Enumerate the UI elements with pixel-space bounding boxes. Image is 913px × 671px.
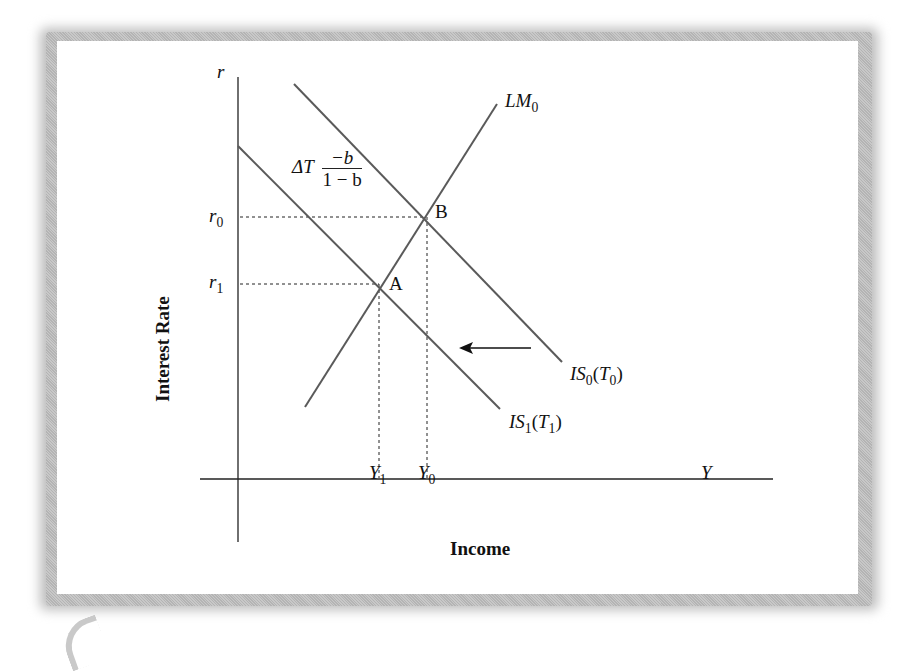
tick-r1-sub: 1 xyxy=(216,281,223,296)
lm0-label: LM0 xyxy=(505,91,538,114)
shift-annotation: ΔT −b 1 − b xyxy=(292,148,362,189)
tick-y0-base: Y xyxy=(418,462,429,483)
shift-annotation-fraction: −b 1 − b xyxy=(322,148,361,189)
tick-y1-sub: 1 xyxy=(380,472,387,487)
y-axis-title: Interest Rate xyxy=(153,296,172,402)
lm0-label-base: LM xyxy=(505,90,531,111)
tick-y0-sub: 0 xyxy=(429,472,436,487)
is0-label-sub: 0 xyxy=(586,373,593,388)
is1-label-paren-base: T xyxy=(538,411,549,432)
tick-r1: r1 xyxy=(209,272,223,295)
x-axis-title: Income xyxy=(450,539,510,558)
is0-label-base: IS xyxy=(570,363,586,384)
lm0-label-sub: 0 xyxy=(531,100,538,115)
point-a-label: A xyxy=(389,274,403,293)
tick-y1-base: Y xyxy=(369,462,380,483)
tick-r0: r0 xyxy=(209,206,223,229)
x-axis-symbol: Y xyxy=(701,463,712,482)
is0-curve xyxy=(294,84,562,362)
is0-label-paren-base: T xyxy=(599,363,610,384)
tick-y0: Y0 xyxy=(418,463,435,486)
is1-label-sub: 1 xyxy=(525,421,532,436)
is0-label: IS0(T0) xyxy=(570,364,623,387)
is1-curve xyxy=(238,146,500,409)
shift-annotation-prefix: ΔT xyxy=(292,156,314,177)
is1-label: IS1(T1) xyxy=(509,412,562,435)
is1-label-base: IS xyxy=(509,411,525,432)
tick-r0-sub: 0 xyxy=(216,215,223,230)
y-axis-symbol: r xyxy=(217,62,224,81)
tick-y1: Y1 xyxy=(369,463,386,486)
fraction-numerator: −b xyxy=(322,148,361,169)
point-b-label: B xyxy=(435,202,448,221)
fraction-denominator: 1 − b xyxy=(322,169,361,189)
